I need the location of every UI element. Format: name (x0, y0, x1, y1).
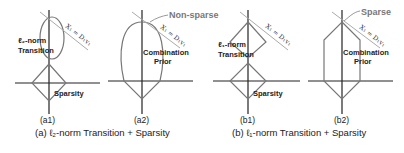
a1-line-label: X₁ = D₁v₁ (64, 22, 94, 48)
panel-a1: X₁ = D₁v₁ ℓ₂-norm Transition Sparsity (a… (15, 10, 100, 125)
b2-sub-label: (b2) (334, 115, 349, 125)
b1-line-label: X₁ = D₁v₁ (264, 22, 294, 48)
b1-region-label-2: Transition (218, 50, 254, 59)
b2-point-label: Sparse (361, 7, 391, 17)
a2-prior-label-1: Combination (143, 48, 189, 57)
a1-region-label-1: ℓ₂-norm (18, 36, 47, 45)
a2-line-label: X₁ = D₁v₁ (159, 23, 189, 49)
a1-region-label-2: Transition (18, 46, 54, 55)
a2-prior-label-2: Prior (154, 57, 172, 66)
b2-prior-label-1: Combination (343, 48, 389, 57)
a2-sub-label: (a2) (134, 115, 149, 125)
b2-annotation-arrow (344, 11, 360, 21)
a2-annotation-arrow (150, 15, 168, 22)
b1-sub-label: (b1) (240, 115, 255, 125)
caption-a: (a) ℓ₂-norm Transition + Sparsity (35, 127, 170, 138)
a2-point-label: Non-sparse (169, 10, 219, 20)
b1-region-label-1: ℓ₁-norm (218, 40, 246, 49)
panel-b1: X₁ = D₁v₁ ℓ₁-norm Transition Sparsity (b… (213, 10, 300, 125)
a1-sparsity-label: Sparsity (54, 89, 84, 98)
a1-sub-label: (a1) (40, 115, 55, 125)
caption-b: (b) ℓ₁-norm Transition + Sparsity (232, 127, 367, 138)
b1-sparsity-label: Sparsity (253, 89, 283, 98)
b2-prior-label-2: Prior (354, 57, 372, 66)
diagram-figure: X₁ = D₁v₁ ℓ₂-norm Transition Sparsity (a… (0, 0, 404, 153)
b2-line-label: X₁ = D₁v₁ (358, 23, 388, 49)
panel-a2: Non-sparse X₁ = D₁v₁ Combination Prior (… (108, 10, 219, 125)
panel-b2: Sparse X₁ = D₁v₁ Combination Prior (b2) (308, 7, 393, 125)
